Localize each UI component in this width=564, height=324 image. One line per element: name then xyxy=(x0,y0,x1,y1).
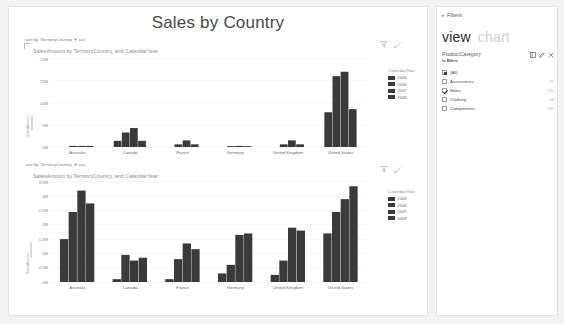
legend-item[interactable]: 2007 xyxy=(388,88,415,93)
bar[interactable] xyxy=(323,233,331,282)
filters-panel-header[interactable]: ▸ Filters xyxy=(442,12,462,18)
y-tick-label: 3M xyxy=(42,194,48,199)
legend-label: 2007 xyxy=(397,88,406,93)
filter-value-row[interactable]: Bikes125 xyxy=(442,86,554,95)
bar[interactable] xyxy=(341,199,349,282)
filter-value-label: (All) xyxy=(450,70,554,75)
legend-swatch xyxy=(388,89,395,93)
bar[interactable] xyxy=(69,212,77,282)
bar[interactable] xyxy=(191,144,199,147)
tab-view[interactable]: view xyxy=(442,29,471,45)
bar[interactable] xyxy=(349,109,357,147)
bar[interactable] xyxy=(280,144,288,147)
x-tick-label: Germany xyxy=(227,150,245,155)
bar[interactable] xyxy=(165,279,173,282)
bar[interactable] xyxy=(324,112,332,147)
legend-swatch xyxy=(388,216,395,220)
filter-checkbox[interactable] xyxy=(442,79,447,84)
legend-label: 2008 xyxy=(397,95,406,100)
bar[interactable] xyxy=(86,203,94,282)
bar[interactable] xyxy=(130,128,138,147)
filter-checkbox[interactable] xyxy=(442,106,447,111)
bar[interactable] xyxy=(113,279,121,282)
legend-item[interactable]: 2006 xyxy=(388,203,415,208)
bar[interactable] xyxy=(244,146,252,147)
chevron-right-icon[interactable]: ▸ xyxy=(442,12,445,18)
bar[interactable] xyxy=(139,258,147,282)
bar[interactable] xyxy=(288,140,296,147)
filter-value-label: Clothing xyxy=(450,97,550,102)
bar[interactable] xyxy=(138,141,146,147)
bar[interactable] xyxy=(114,141,122,147)
bar[interactable] xyxy=(121,255,129,282)
bar[interactable] xyxy=(175,144,183,147)
bar[interactable] xyxy=(183,243,191,282)
bar[interactable] xyxy=(332,212,340,282)
bar[interactable] xyxy=(86,146,94,147)
bar[interactable] xyxy=(122,132,130,147)
filter-value-row[interactable]: Components189 xyxy=(442,104,554,113)
bar[interactable] xyxy=(235,146,243,147)
bar[interactable] xyxy=(130,261,138,282)
filter-checkbox[interactable] xyxy=(442,70,447,75)
bar[interactable] xyxy=(191,249,199,282)
filter-checkbox[interactable] xyxy=(442,97,447,102)
bar[interactable] xyxy=(77,146,85,147)
bar[interactable] xyxy=(349,186,357,282)
legend-swatch xyxy=(388,76,395,80)
legend-item[interactable]: 2008 xyxy=(388,95,415,100)
legend-items-1: 2005200620072008 xyxy=(388,75,415,100)
y-tick-label: 2M xyxy=(42,222,48,227)
bar[interactable] xyxy=(279,261,287,282)
filter-values-list: (All)Accessories35Bikes125Clothing48Comp… xyxy=(442,68,554,113)
legend-item[interactable]: 2005 xyxy=(388,196,415,201)
edit-pencil-icon[interactable] xyxy=(539,52,545,58)
x-tick-label: France xyxy=(176,150,190,155)
filter-value-row[interactable]: (All) xyxy=(442,68,554,77)
legend-2: CalendarYear 2005200620072008 xyxy=(388,189,415,222)
filter-card-header: ProductCategory is Bikes xyxy=(442,51,554,63)
legend-item[interactable]: 2005 xyxy=(388,75,415,80)
list-view-icon[interactable] xyxy=(530,52,536,58)
bar[interactable] xyxy=(183,140,191,147)
legend-item[interactable]: 2007 xyxy=(388,209,415,214)
legend-item[interactable]: 2008 xyxy=(388,216,415,221)
bar[interactable] xyxy=(227,265,235,282)
y-tick-label: 0M xyxy=(42,145,48,150)
legend-swatch xyxy=(388,203,395,207)
bar[interactable] xyxy=(218,273,226,282)
filter-value-row[interactable]: Accessories35 xyxy=(442,77,554,86)
bar[interactable] xyxy=(341,72,349,147)
y-tick-label: 3.5M xyxy=(39,180,49,185)
filters-label: Filters xyxy=(447,12,462,18)
bar[interactable] xyxy=(60,239,68,282)
y-tick-label: 0M xyxy=(42,280,48,285)
filter-value-label: Accessories xyxy=(450,79,550,84)
x-tick-label: Australia xyxy=(69,285,86,290)
y-tick-label: 15M xyxy=(40,79,49,84)
tab-chart[interactable]: chart xyxy=(478,29,510,45)
close-x-icon[interactable] xyxy=(548,52,554,58)
legend-label: 2006 xyxy=(397,82,406,87)
bar[interactable] xyxy=(288,228,296,282)
bar[interactable] xyxy=(244,233,252,282)
filter-value-count: 125 xyxy=(547,88,554,93)
bar[interactable] xyxy=(271,275,279,282)
visual-bar-chart-2[interactable]: sort by TerritoryCountry ▼ asc SalesAmou… xyxy=(19,162,419,312)
bar[interactable] xyxy=(174,259,182,282)
x-tick-label: United Kingdom xyxy=(273,150,303,155)
bar[interactable] xyxy=(77,191,85,282)
visual-bar-chart-1[interactable]: sort by TerritoryCountry ▼ asc SalesAmou… xyxy=(19,37,419,169)
filter-checkbox[interactable] xyxy=(442,88,447,93)
bar[interactable] xyxy=(297,231,305,282)
filter-value-row[interactable]: Clothing48 xyxy=(442,95,554,104)
bar[interactable] xyxy=(333,76,341,147)
bar[interactable] xyxy=(69,146,77,147)
bar[interactable] xyxy=(296,144,304,147)
bar[interactable] xyxy=(227,146,235,147)
filter-value-count: 48 xyxy=(550,97,554,102)
legend-label: 2005 xyxy=(397,196,406,201)
bar[interactable] xyxy=(235,235,243,282)
filters-panel: ▸ Filters view chart ProductCategory is … xyxy=(436,6,558,316)
legend-item[interactable]: 2006 xyxy=(388,82,415,87)
